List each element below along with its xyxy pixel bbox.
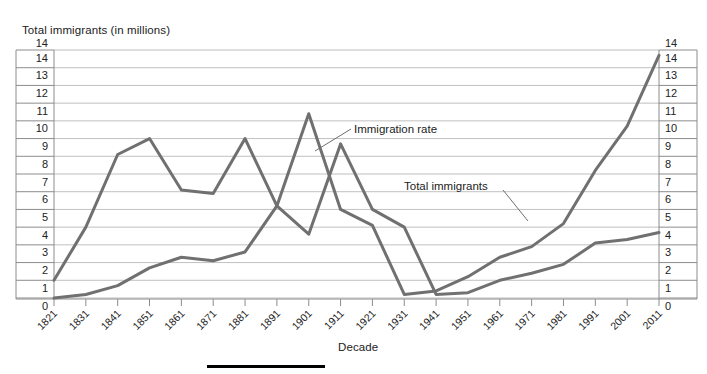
x-tick-label: 1901 xyxy=(289,307,314,332)
line-chart-plot: 0123456789101112131414 01234567891011121… xyxy=(0,0,707,374)
y-tick-label-left: 5 xyxy=(42,211,48,223)
x-tick-label: 1971 xyxy=(512,307,537,332)
y-tick-label-right: 13 xyxy=(665,69,677,81)
y-tick-label-right: 8 xyxy=(665,158,671,170)
y-tick-label-left: 1 xyxy=(42,282,48,294)
y-tick-label-right: 2 xyxy=(665,264,671,276)
x-tick-label: 2011 xyxy=(640,307,665,332)
x-tick-label: 1991 xyxy=(576,307,601,332)
y-tick-label-right: 12 xyxy=(665,87,677,99)
x-axis xyxy=(16,299,697,306)
y-tick-label-left: 10 xyxy=(36,122,48,134)
x-tick-label: 1881 xyxy=(225,307,250,332)
series-annotations: Immigration rateTotal immigrants xyxy=(315,123,528,221)
y-tick-label-left: 14 xyxy=(36,52,48,64)
y-tick-label-right: 1 xyxy=(665,282,671,294)
annotation-immigration-rate: Immigration rate xyxy=(354,123,437,135)
x-tick-label: 1821 xyxy=(34,307,59,332)
y-tick-label-left: 6 xyxy=(42,193,48,205)
x-tick-label: 1841 xyxy=(98,307,123,332)
x-tick-label: 1831 xyxy=(66,307,91,332)
x-tick-label: 1961 xyxy=(480,307,505,332)
y-tick-label-left: 12 xyxy=(36,87,48,99)
y-tick-label-right: 11 xyxy=(665,105,676,117)
x-tick-label: 1851 xyxy=(130,307,155,332)
x-tick-label: 1941 xyxy=(417,307,442,332)
x-tick-label: 1891 xyxy=(257,307,282,332)
y-tick-label-right-top: 14 xyxy=(665,37,677,49)
y-tick-label-left: 2 xyxy=(42,264,48,276)
y-tick-label-right: 9 xyxy=(665,140,671,152)
x-tick-label: 1981 xyxy=(544,307,569,332)
chart-root: Total immigrants (in millions) Decade 01… xyxy=(0,0,707,374)
y-tick-label-left-top: 14 xyxy=(36,37,48,49)
x-tick-label: 1931 xyxy=(385,307,410,332)
y-tick-label-left: 3 xyxy=(42,246,48,258)
y-tick-label-right: 4 xyxy=(665,229,671,241)
y-tick-label-right: 3 xyxy=(665,246,671,258)
annotation-leader-immigration-rate xyxy=(315,129,351,151)
footer-rule xyxy=(207,365,325,368)
annotation-leader-total-immigrants xyxy=(503,190,528,221)
annotation-total-immigrants: Total immigrants xyxy=(404,180,488,192)
x-tick-label: 1861 xyxy=(162,307,187,332)
y-tick-label-right: 14 xyxy=(665,52,677,64)
y-tick-label-left: 8 xyxy=(42,158,48,170)
data-series xyxy=(54,55,659,298)
x-axis-tick-labels: 1821183118411851186118711881189119011911… xyxy=(34,307,664,332)
y-tick-label-right: 0 xyxy=(665,300,671,312)
x-tick-label: 1871 xyxy=(194,307,219,332)
y-tick-label-left: 9 xyxy=(42,140,48,152)
x-tick-label: 1951 xyxy=(448,307,473,332)
series-line-total-immigrants xyxy=(54,144,659,298)
x-tick-label: 2001 xyxy=(608,307,633,332)
y-tick-label-left: 13 xyxy=(36,69,48,81)
y-tick-label-right: 5 xyxy=(665,211,671,223)
y-tick-label-left: 4 xyxy=(42,229,48,241)
x-tick-label: 1921 xyxy=(353,307,378,332)
y-tick-label-right: 7 xyxy=(665,176,671,188)
y-tick-label-left: 11 xyxy=(37,105,48,117)
y-tick-label-left: 7 xyxy=(42,176,48,188)
y-tick-label-right: 6 xyxy=(665,193,671,205)
y-tick-label-right: 10 xyxy=(665,122,677,134)
x-tick-label: 1911 xyxy=(322,307,347,332)
